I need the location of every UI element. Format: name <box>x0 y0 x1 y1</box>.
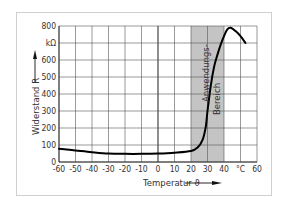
y-tick-label: 300 <box>41 106 56 116</box>
region-label-line1: Anwendungs- <box>201 44 211 102</box>
x-tick-label: -30 <box>102 164 115 174</box>
y-tick-label: 400 <box>41 89 56 99</box>
x-tick-label: 40 <box>219 164 229 174</box>
y-axis-tick-labels: 0100200300400500600kΩ800 <box>41 21 56 167</box>
x-tick-label: 20 <box>186 164 196 174</box>
y-axis-arrow-icon <box>33 50 37 59</box>
x-axis-tick-labels: -60-50-40-30-20-10010203040°C60 <box>53 164 262 174</box>
x-tick-label: -10 <box>135 164 148 174</box>
y-axis-title: Widerstand R <box>31 50 41 135</box>
y-tick-label: 0 <box>51 157 56 167</box>
x-tick-label: 60 <box>252 164 262 174</box>
region-label-line2: Bereich <box>212 83 222 115</box>
x-tick-label: 0 <box>156 164 161 174</box>
y-tick-label: 100 <box>41 140 56 150</box>
y-axis-label: Widerstand R <box>31 78 41 135</box>
x-tick-label: 30 <box>203 164 213 174</box>
y-tick-label: kΩ <box>46 38 56 48</box>
grid-lines <box>59 26 257 162</box>
x-axis-arrow-icon <box>212 181 222 185</box>
y-tick-label: 800 <box>41 21 56 31</box>
y-tick-label: 200 <box>41 123 56 133</box>
y-tick-label: 500 <box>41 72 56 82</box>
x-tick-label: -50 <box>69 164 82 174</box>
x-tick-label: -40 <box>86 164 99 174</box>
x-tick-label: 10 <box>170 164 180 174</box>
x-tick-label: -20 <box>119 164 132 174</box>
y-tick-label: 600 <box>41 55 56 65</box>
x-tick-label: °C <box>236 164 245 174</box>
x-axis-title: Temperatur ϑ <box>142 178 222 188</box>
chart-canvas: -60-50-40-30-20-10010203040°C60 01002003… <box>0 0 286 203</box>
